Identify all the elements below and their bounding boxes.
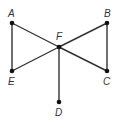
edge-e-f — [12, 47, 59, 71]
vertex-label-f: F — [56, 31, 63, 42]
graph-diagram: ABFECD — [0, 0, 114, 125]
vertex-label-d: D — [55, 107, 62, 118]
vertex-label-c: C — [103, 76, 111, 87]
edge-f-b — [59, 23, 107, 47]
vertex-d — [57, 100, 62, 105]
vertex-e — [10, 69, 15, 74]
vertex-label-e: E — [8, 76, 15, 87]
vertex-a — [10, 21, 15, 26]
vertex-c — [105, 69, 110, 74]
edge-a-f — [12, 23, 59, 47]
edge-f-c — [59, 47, 107, 71]
vertex-label-a: A — [7, 8, 15, 19]
vertex-b — [105, 21, 110, 26]
vertex-label-b: B — [104, 8, 111, 19]
vertex-f — [57, 45, 62, 50]
